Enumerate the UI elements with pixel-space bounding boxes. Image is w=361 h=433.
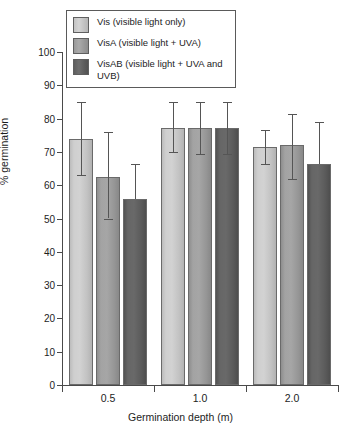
error-cap-top-visab-1.0 — [223, 102, 232, 103]
error-cap-bottom-visa-0.5 — [104, 219, 113, 220]
bar-visab-0.5 — [123, 199, 147, 385]
y-axis-tick-mark — [57, 185, 62, 186]
error-cap-bottom-vis-0.5 — [77, 175, 86, 176]
legend-swatch-vis-icon — [73, 17, 89, 33]
legend-label-vis: Vis (visible light only) — [97, 16, 186, 28]
plot-area — [62, 52, 338, 385]
error-cap-bottom-vis-2.0 — [261, 164, 270, 165]
error-cap-bottom-vis-1.0 — [169, 152, 178, 153]
error-bar-visab-2.0 — [319, 122, 320, 164]
y-axis-tick-label: 30 — [0, 280, 62, 291]
y-axis-tick-label: 0 — [0, 380, 62, 391]
x-axis-group-tick — [154, 385, 155, 392]
y-axis-tick-label: 80 — [0, 113, 62, 124]
bar-visa-2.0 — [280, 145, 304, 385]
x-axis-tick-label: 0.5 — [101, 392, 116, 404]
error-cap-bottom-visa-2.0 — [288, 179, 297, 180]
y-axis-tick-label: 60 — [0, 180, 62, 191]
legend-label-visa: VisA (visible light + UVA) — [97, 37, 201, 49]
error-cap-top-vis-0.5 — [77, 102, 86, 103]
bar-visab-2.0 — [307, 164, 331, 385]
y-axis-tick-label: 10 — [0, 346, 62, 357]
y-axis-tick-label: 90 — [0, 80, 62, 91]
y-axis-tick-mark — [57, 52, 62, 53]
error-cap-top-visa-0.5 — [104, 132, 113, 133]
error-cap-top-vis-2.0 — [261, 130, 270, 131]
x-axis-line — [62, 385, 339, 386]
y-axis-tick-mark — [57, 152, 62, 153]
x-axis-title: Germination depth (m) — [0, 411, 361, 423]
error-bar-visab-0.5 — [135, 164, 136, 199]
y-axis-tick-mark — [57, 252, 62, 253]
error-cap-top-visa-1.0 — [196, 102, 205, 103]
y-axis-tick-mark — [57, 285, 62, 286]
legend-item-vis: Vis (visible light only) — [73, 16, 229, 33]
error-bar-visa-2.0 — [292, 114, 293, 179]
y-axis-tick-label: 50 — [0, 213, 62, 224]
error-cap-top-visab-2.0 — [315, 122, 324, 123]
x-axis-end-tick — [62, 385, 63, 392]
x-axis-group-tick — [246, 385, 247, 392]
error-bar-vis-0.5 — [81, 102, 82, 175]
error-bar-visa-0.5 — [108, 132, 109, 219]
y-axis-tick-mark — [57, 318, 62, 319]
error-bar-visa-1.0 — [200, 102, 201, 154]
y-axis-tick-label: 70 — [0, 146, 62, 157]
x-axis-tick-label: 1.0 — [193, 392, 208, 404]
y-axis-tick-label: 40 — [0, 246, 62, 257]
x-axis-tick-label: 2.0 — [285, 392, 300, 404]
y-axis-tick-label: 100 — [0, 47, 62, 58]
error-bar-vis-1.0 — [173, 102, 174, 152]
y-axis-tick-mark — [57, 352, 62, 353]
y-axis-tick-mark — [57, 85, 62, 86]
y-axis-tick-mark — [57, 119, 62, 120]
error-bar-visab-1.0 — [227, 102, 228, 154]
error-cap-bottom-visa-1.0 — [196, 154, 205, 155]
error-bar-vis-2.0 — [265, 130, 266, 163]
germination-bar-chart: Vis (visible light only) VisA (visible l… — [0, 0, 361, 433]
error-cap-top-vis-1.0 — [169, 102, 178, 103]
error-cap-bottom-visab-1.0 — [223, 154, 232, 155]
error-cap-top-visa-2.0 — [288, 114, 297, 115]
bar-visa-1.0 — [188, 128, 212, 385]
x-axis-end-tick — [338, 385, 339, 392]
bar-visab-1.0 — [215, 128, 239, 385]
y-axis-tick-label: 20 — [0, 313, 62, 324]
bar-vis-2.0 — [253, 147, 277, 385]
y-axis-tick-mark — [57, 219, 62, 220]
error-cap-top-visab-0.5 — [131, 164, 140, 165]
bar-vis-1.0 — [161, 128, 185, 385]
